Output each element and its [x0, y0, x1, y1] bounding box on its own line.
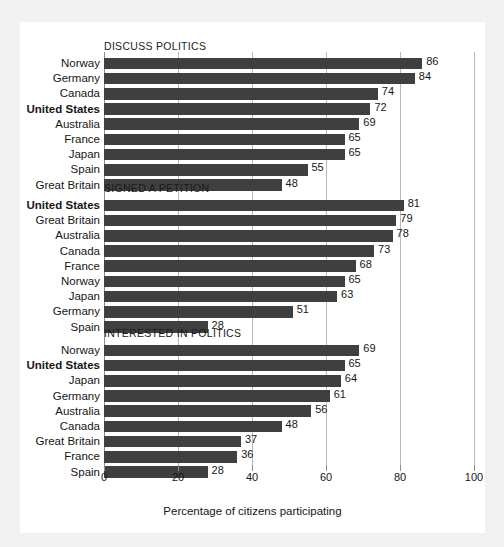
- x-tick-label: 100: [465, 471, 483, 483]
- bar: [104, 88, 378, 100]
- bar-track: [104, 215, 396, 227]
- bar-row: Norway65: [20, 274, 485, 289]
- bar: [104, 375, 341, 387]
- bar-row: Great Britain48: [20, 178, 485, 193]
- bar: [104, 118, 359, 130]
- bar: [104, 276, 345, 288]
- bar-track: [104, 276, 345, 288]
- bar: [104, 230, 393, 242]
- bar-value-label: 65: [349, 146, 361, 160]
- bar-value-label: 65: [349, 273, 361, 287]
- bar-value-label: 73: [378, 243, 390, 257]
- bar-row-label: Australia: [55, 228, 100, 243]
- bar: [104, 149, 345, 161]
- bar-track: [104, 200, 404, 212]
- bar-value-label: 37: [245, 433, 257, 447]
- bar-value-label: 51: [297, 303, 309, 317]
- bar: [104, 245, 374, 257]
- bar-row-label: France: [64, 259, 100, 274]
- bar: [104, 390, 330, 402]
- bar-value-label: 81: [408, 197, 420, 211]
- bar-value-label: 56: [315, 403, 327, 417]
- bar: [104, 200, 404, 212]
- bar-track: [104, 390, 330, 402]
- bar: [104, 436, 241, 448]
- bar-track: [104, 88, 378, 100]
- bar: [104, 73, 415, 85]
- bar-row-label: Germany: [53, 304, 100, 319]
- bar: [104, 103, 370, 115]
- bar-row-label: Canada: [60, 419, 100, 434]
- bar-row: Great Britain37: [20, 434, 485, 449]
- bar-row: Australia56: [20, 404, 485, 419]
- bar-value-label: 69: [363, 342, 375, 356]
- bar-track: [104, 245, 374, 257]
- bar-row-label: Great Britain: [35, 178, 100, 193]
- bar-row: Japan63: [20, 289, 485, 304]
- x-tick-label: 20: [172, 471, 184, 483]
- bar: [104, 215, 396, 227]
- bar-row-label: United States: [27, 198, 101, 213]
- bar-row-label: Germany: [53, 389, 100, 404]
- x-tick-label: 40: [246, 471, 258, 483]
- bar-value-label: 55: [312, 161, 324, 175]
- bar-row: Great Britain79: [20, 213, 485, 228]
- bar-track: [104, 149, 345, 161]
- bar: [104, 345, 359, 357]
- bar-row-label: France: [64, 132, 100, 147]
- bar-row-label: Japan: [69, 373, 100, 388]
- bar-rows: Norway86Germany84Canada74United States72…: [20, 56, 485, 193]
- bar-row: Japan65: [20, 147, 485, 162]
- bar: [104, 360, 345, 372]
- bar-track: [104, 73, 415, 85]
- bar-row: United States72: [20, 102, 485, 117]
- bar-row: Australia69: [20, 117, 485, 132]
- bar-track: [104, 164, 308, 176]
- bar-row-label: Great Britain: [35, 434, 100, 449]
- bar-track: [104, 345, 359, 357]
- bar-row-label: Norway: [61, 56, 100, 71]
- bar-value-label: 74: [382, 85, 394, 99]
- bar-row-label: France: [64, 449, 100, 464]
- bar-track: [104, 291, 337, 303]
- bar-row: Australia78: [20, 228, 485, 243]
- bar-value-label: 48: [286, 177, 298, 191]
- bar-row-label: Great Britain: [35, 213, 100, 228]
- bar-row-label: United States: [27, 102, 101, 117]
- bar-row: France65: [20, 132, 485, 147]
- bar-track: [104, 134, 345, 146]
- bar-row-label: Australia: [55, 117, 100, 132]
- x-tick-label: 60: [320, 471, 332, 483]
- bar-value-label: 86: [426, 55, 438, 69]
- bar-value-label: 79: [400, 212, 412, 226]
- bar-chart-plot: DISCUSS POLITICSNorway86Germany84Canada7…: [20, 22, 485, 533]
- section-title: INTERESTED IN POLITICS: [104, 327, 241, 339]
- bar-track: [104, 230, 393, 242]
- bar-row: Spain55: [20, 162, 485, 177]
- bar: [104, 306, 293, 318]
- bar-row-label: Japan: [69, 147, 100, 162]
- bar-row: Japan64: [20, 373, 485, 388]
- bar: [104, 421, 282, 433]
- bar: [104, 58, 422, 70]
- bar: [104, 451, 237, 463]
- bar-row: Canada74: [20, 86, 485, 101]
- bar-row: Norway69: [20, 343, 485, 358]
- bar-track: [104, 405, 311, 417]
- bar-value-label: 36: [241, 448, 253, 462]
- bar-track: [104, 260, 356, 272]
- bar-row: Canada73: [20, 244, 485, 259]
- x-tick-label: 80: [394, 471, 406, 483]
- bar-rows: Norway69United States65Japan64Germany61A…: [20, 343, 485, 480]
- bar: [104, 134, 345, 146]
- bar-rows: United States81Great Britain79Australia7…: [20, 198, 485, 335]
- x-axis-title: Percentage of citizens participating: [20, 505, 485, 517]
- bar-value-label: 84: [419, 70, 431, 84]
- bar-track: [104, 360, 345, 372]
- bar-track: [104, 103, 370, 115]
- bar-row-label: Spain: [71, 162, 100, 177]
- bar-row: Norway86: [20, 56, 485, 71]
- bar-track: [104, 451, 237, 463]
- bar-row-label: Norway: [61, 343, 100, 358]
- bar-track: [104, 421, 282, 433]
